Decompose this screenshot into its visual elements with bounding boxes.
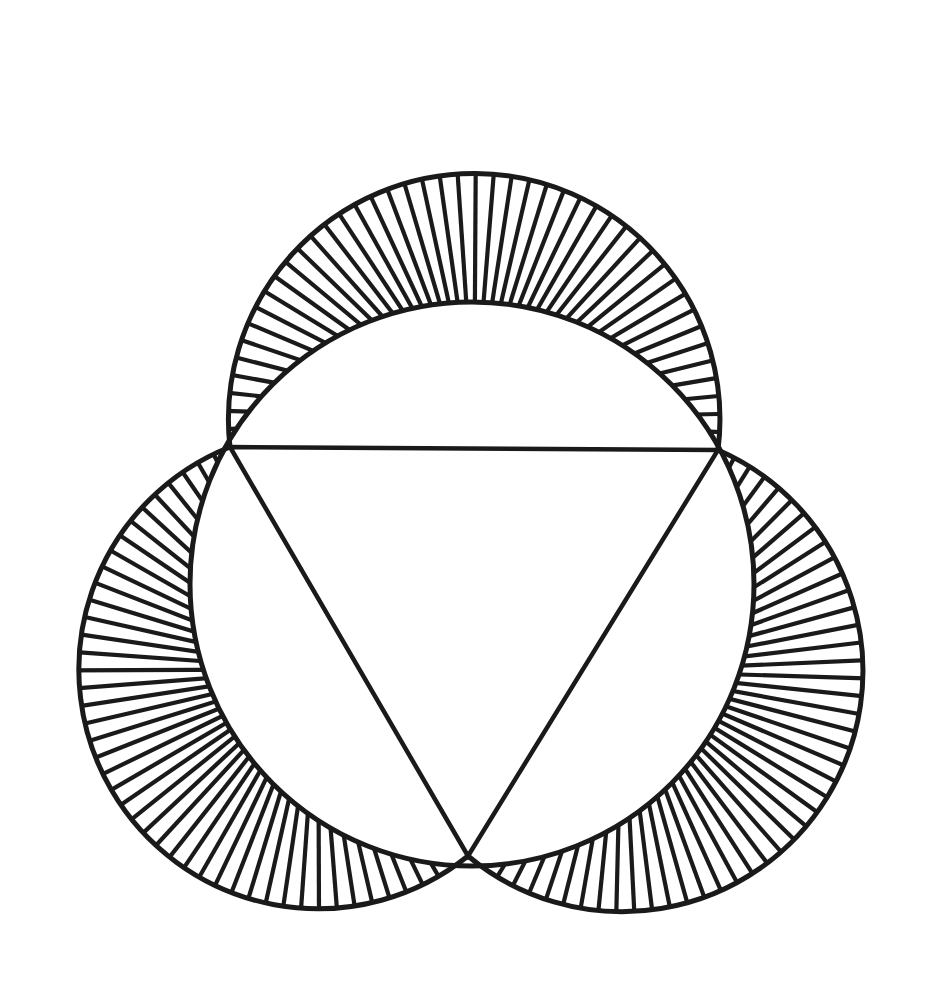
hatch-left <box>69 445 459 919</box>
hatch-top <box>219 164 730 433</box>
lunes-diagram <box>0 0 935 993</box>
